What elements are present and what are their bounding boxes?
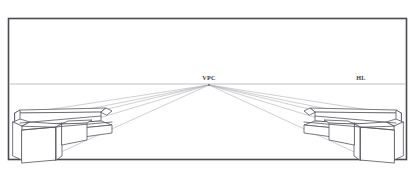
left-bench-front-block-side xyxy=(56,124,62,160)
vanishing-point-marker xyxy=(208,84,210,86)
perspective-drawing-canvas: VPC HL xyxy=(0,0,416,173)
left-bench-front-block-face xyxy=(22,127,56,163)
right-bench-front-block-face xyxy=(360,127,394,163)
vanishing-point-label: VPC xyxy=(202,74,215,81)
right-bench-armrest-post xyxy=(394,122,403,160)
perspective-diagram: VPC HL xyxy=(0,0,416,173)
horizon-line-label: HL xyxy=(356,74,365,81)
left-bench-armrest-post xyxy=(13,122,22,160)
right-bench-front-block-side xyxy=(354,124,360,160)
